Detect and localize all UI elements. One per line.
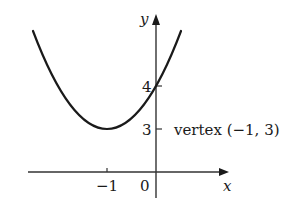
y-tick-label-3: 3 (142, 121, 152, 139)
parabola-curve (33, 31, 181, 129)
x-axis-arrow-icon (219, 168, 229, 176)
y-tick-label-4: 4 (142, 78, 152, 96)
x-tick-label-0: 0 (140, 177, 150, 195)
x-tick-label-neg1: −1 (96, 177, 118, 195)
x-axis-label: x (223, 177, 232, 195)
vertex-annotation: vertex (−1, 3) (173, 121, 280, 139)
parabola-graph: y x 4 3 −1 0 vertex (−1, 3) (0, 0, 292, 214)
y-axis-label: y (139, 10, 149, 28)
y-axis-arrow-icon (152, 14, 160, 25)
